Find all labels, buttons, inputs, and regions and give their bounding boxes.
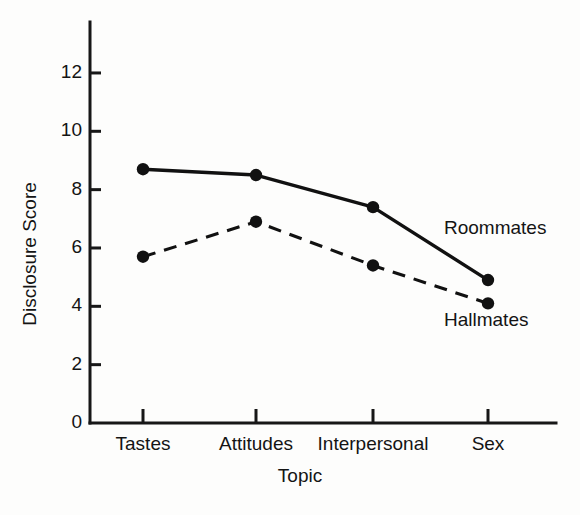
series-line-hallmates [143,222,488,304]
x-category-label-interpersonal: Interpersonal [318,433,429,455]
x-axis-title: Topic [278,465,322,487]
data-point-marker [367,259,379,271]
data-point-marker [482,274,494,286]
y-tick-label: 4 [40,294,82,316]
y-axis-title: Disclosure Score [19,144,41,364]
y-tick-label: 8 [40,178,82,200]
data-point-marker [250,216,262,228]
series-label-hallmates: Hallmates [444,309,528,331]
series-label-roommates: Roommates [444,217,546,239]
data-point-marker [482,297,494,309]
x-category-label-sex: Sex [472,433,505,455]
y-tick-label: 0 [40,411,82,433]
series-paths [143,169,488,303]
data-point-marker [250,169,262,181]
data-point-marker [367,201,379,213]
y-tick-label: 12 [40,61,82,83]
data-point-marker [137,163,149,175]
x-category-label-tastes: Tastes [116,433,171,455]
y-tick-label: 6 [40,236,82,258]
y-tick-marks [90,73,101,365]
y-tick-label: 10 [40,119,82,141]
disclosure-score-line-chart: 024681012 TastesAttitudesInterpersonalSe… [0,0,580,515]
x-tick-marks [143,409,488,423]
x-category-label-attitudes: Attitudes [219,433,293,455]
series-line-roommates [143,169,488,280]
y-tick-label: 2 [40,353,82,375]
data-point-marker [137,251,149,263]
